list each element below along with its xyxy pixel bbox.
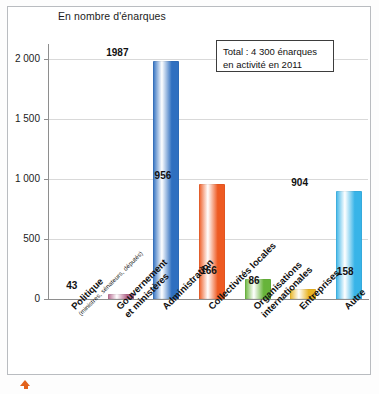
bar [199, 184, 225, 299]
y-tick-label: 2 000 [2, 53, 40, 64]
bar [336, 191, 362, 299]
y-tick-label: 1 500 [2, 113, 40, 124]
annotation-line-1: Total : 4 300 énarques [223, 45, 327, 58]
y-tick-label: 1 000 [2, 173, 40, 184]
annotation-line-2: en activité en 2011 [223, 58, 327, 71]
y-tick-mark [44, 119, 49, 120]
bar-value-label: 904 [270, 177, 330, 188]
y-tick-mark [44, 59, 49, 60]
chart-title: En nombre d'énarques [58, 10, 166, 22]
marker-stem [24, 385, 28, 389]
figure-container: En nombre d'énarques 05001 0001 5002 000… [0, 0, 379, 394]
gridline [49, 119, 368, 120]
y-tick-mark [44, 179, 49, 180]
bar-value-label: 1987 [87, 47, 147, 58]
orange-marker-icon [20, 380, 31, 389]
y-tick-label: 500 [2, 233, 40, 244]
total-annotation-box: Total : 4 300 énarques en activité en 20… [216, 40, 334, 72]
y-tick-mark [44, 299, 49, 300]
bar-value-label: 956 [133, 170, 193, 181]
y-tick-label: 0 [2, 293, 40, 304]
y-tick-mark [44, 239, 49, 240]
